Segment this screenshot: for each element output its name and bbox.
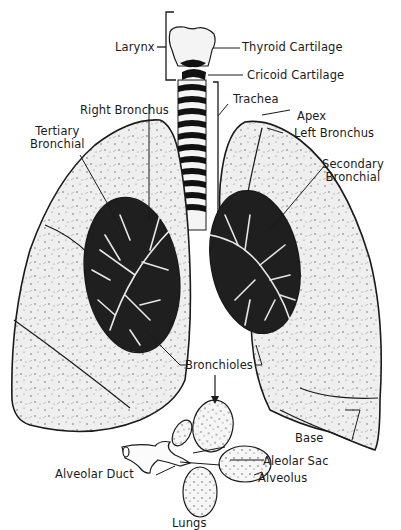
label-larynx: Larynx <box>115 41 155 54</box>
figure-caption: Lungs <box>172 517 207 530</box>
label-alveolus: Alveolus <box>258 472 307 485</box>
label-cricoid-cartilage: Cricoid Cartilage <box>247 69 344 82</box>
label-left-bronchus: Left Bronchus <box>294 127 374 140</box>
label-aleolar-sac: Aleolar Sac <box>263 455 329 468</box>
label-trachea: Trachea <box>233 93 279 106</box>
label-alveolar-duct: Alveolar Duct <box>55 468 134 481</box>
label-bronchioles: Bronchioles <box>185 359 253 372</box>
label-tertiary-bronchial: Tertiary Bronchial <box>30 125 85 151</box>
label-thyroid-cartilage: Thyroid Cartilage <box>242 41 343 54</box>
label-base: Base <box>295 432 323 445</box>
label-apex: Apex <box>297 110 326 123</box>
label-secondary-bronchial: Secondary Bronchial <box>322 158 384 184</box>
label-right-bronchus: Right Bronchus <box>80 104 169 117</box>
